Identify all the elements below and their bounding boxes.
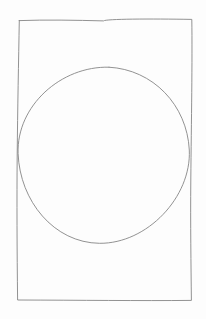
sketch-page bbox=[0, 0, 206, 319]
circle-outline bbox=[18, 67, 189, 243]
rectangle-outline bbox=[17, 19, 192, 301]
sketch-canvas bbox=[0, 0, 206, 319]
